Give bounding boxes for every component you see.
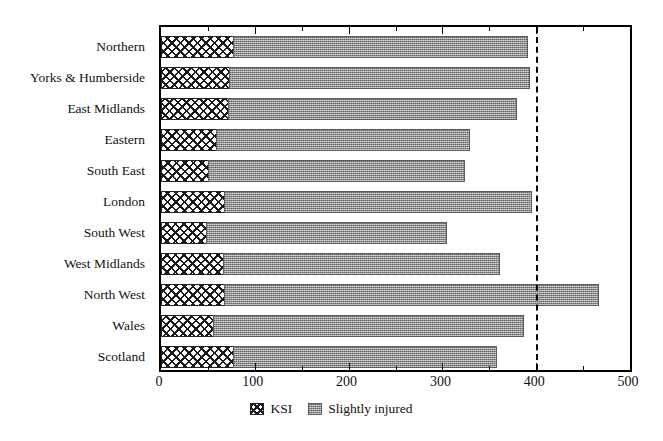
- legend-entry: Slightly injured: [308, 402, 412, 416]
- chart-legend: KSISlightly injured: [0, 398, 663, 420]
- category-label: Scotland: [98, 350, 145, 364]
- legend-entry: KSI: [250, 402, 292, 416]
- bar-segment-ksi: [161, 222, 207, 244]
- x-axis-minor-tick: [489, 27, 490, 31]
- category-label: Eastern: [105, 133, 145, 147]
- bar-row: [161, 36, 630, 58]
- x-axis-major-tick: [255, 27, 256, 34]
- bar-segment-ksi: [161, 160, 209, 182]
- legend-swatch-slightly-injured-icon: [308, 403, 322, 415]
- category-axis-labels: NorthernYorks & HumbersideEast MidlandsE…: [0, 27, 152, 368]
- bar-segment-ksi: [161, 36, 234, 58]
- x-axis-tick-label: 200: [336, 374, 357, 390]
- bar-row: [161, 315, 630, 337]
- x-axis-tick-label: 300: [430, 374, 451, 390]
- bar-row: [161, 253, 630, 275]
- x-axis-minor-tick: [396, 27, 397, 31]
- bar-segment-slightly-injured: [213, 315, 523, 337]
- x-axis-major-tick: [349, 27, 350, 34]
- bar-segment-ksi: [161, 67, 230, 89]
- x-axis-minor-tick: [583, 366, 584, 370]
- bar-segment-slightly-injured: [223, 253, 501, 275]
- bar-segment-ksi: [161, 346, 234, 368]
- bar-segment-slightly-injured: [233, 346, 497, 368]
- x-axis-minor-tick: [583, 27, 584, 31]
- bar-segment-slightly-injured: [233, 36, 528, 58]
- x-axis-minor-tick: [302, 27, 303, 31]
- x-axis-major-tick: [442, 363, 443, 370]
- bar-segment-slightly-injured: [206, 222, 447, 244]
- category-label: South East: [87, 164, 145, 178]
- x-axis-tick-label: 400: [524, 374, 545, 390]
- x-axis-tick-label: 100: [242, 374, 263, 390]
- x-axis-tick-labels: 0100200300400500: [0, 374, 663, 394]
- category-label: Northern: [96, 40, 145, 54]
- bar-segment-slightly-injured: [228, 98, 517, 120]
- x-axis-minor-tick: [302, 366, 303, 370]
- bar-segment-slightly-injured: [208, 160, 465, 182]
- bar-segment-ksi: [161, 284, 225, 306]
- bar-row: [161, 98, 630, 120]
- bar-row: [161, 160, 630, 182]
- stacked-bar-chart: NorthernYorks & HumbersideEast MidlandsE…: [0, 0, 663, 441]
- x-axis-major-tick: [442, 27, 443, 34]
- bar-row: [161, 284, 630, 306]
- category-label: East Midlands: [67, 102, 145, 116]
- x-axis-tick-label: 0: [156, 374, 163, 390]
- x-axis-tick-label: 500: [618, 374, 639, 390]
- bar-segment-ksi: [161, 253, 224, 275]
- category-label: South West: [84, 226, 145, 240]
- category-label: West Midlands: [64, 257, 145, 271]
- reference-line-400: [536, 27, 538, 370]
- bar-segment-slightly-injured: [224, 191, 533, 213]
- bar-segment-slightly-injured: [216, 129, 469, 151]
- bar-segment-slightly-injured: [229, 67, 529, 89]
- bar-row: [161, 346, 630, 368]
- category-label: London: [103, 195, 145, 209]
- bar-segment-ksi: [161, 191, 225, 213]
- bar-row: [161, 129, 630, 151]
- plot-frame: [159, 25, 632, 372]
- bar-row: [161, 222, 630, 244]
- bar-segment-slightly-injured: [224, 284, 599, 306]
- x-axis-minor-tick: [489, 366, 490, 370]
- legend-label: KSI: [270, 402, 292, 416]
- bar-row: [161, 191, 630, 213]
- x-axis-major-tick: [255, 363, 256, 370]
- x-axis-minor-tick: [208, 366, 209, 370]
- legend-label: Slightly injured: [328, 402, 412, 416]
- x-axis-minor-tick: [208, 27, 209, 31]
- plot-area: [161, 27, 630, 370]
- legend-swatch-ksi-icon: [250, 403, 264, 415]
- category-label: Yorks & Humberside: [30, 71, 145, 85]
- category-label: North West: [84, 288, 145, 302]
- bar-row: [161, 67, 630, 89]
- bar-segment-ksi: [161, 129, 217, 151]
- x-axis-minor-tick: [396, 366, 397, 370]
- bar-segment-ksi: [161, 98, 229, 120]
- x-axis-major-tick: [349, 363, 350, 370]
- bar-segment-ksi: [161, 315, 214, 337]
- category-label: Wales: [112, 319, 145, 333]
